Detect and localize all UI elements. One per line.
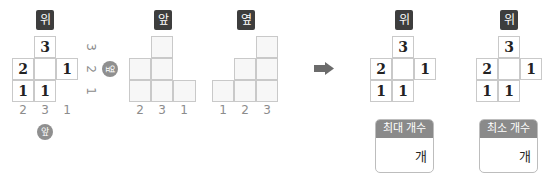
front-column-label: 1 [173,103,195,117]
grid-cell: 1 [392,80,414,102]
side-column-label: 2 [234,103,256,117]
grid-cell: 3 [34,36,56,58]
min-count-title: 최소 개수 [480,120,537,138]
block [151,80,173,102]
block [151,58,173,80]
side-badge: 옆 [102,61,118,77]
block [129,58,151,80]
min-count-unit: 개 [519,146,531,165]
grid-cell: 1 [56,58,78,80]
front-view-label: 앞 [154,10,172,30]
max-count-box: 최대 개수 개 [375,119,434,173]
side-view-label: 옆 [237,10,255,30]
min-count-input[interactable]: 개 [480,138,537,172]
max-count-input[interactable]: 개 [376,138,433,172]
side-column-label: 3 [256,103,278,117]
block [151,36,173,58]
grid-cell: 1 [498,80,520,102]
grid-cell: 1 [370,80,392,102]
block [234,58,256,80]
top-view-label: 위 [36,10,54,30]
right-arrow-icon [314,62,334,75]
block [256,80,278,102]
front-badge: 앞 [37,124,53,140]
grid-cell: 2 [12,58,34,80]
min-count-box: 최소 개수 개 [479,119,538,173]
column-count-label: 2 [12,103,34,117]
column-count-label: 1 [56,103,78,117]
grid-cell: 3 [498,36,520,58]
top-view-label: 위 [395,10,413,30]
grid-cell: 1 [520,58,542,80]
block [256,58,278,80]
front-column-label: 2 [129,103,151,117]
grid-cell [392,58,414,80]
grid-cell: 3 [392,36,414,58]
grid-cell [498,58,520,80]
grid-cell: 1 [476,80,498,102]
max-count-unit: 개 [415,146,427,165]
block [212,80,234,102]
block [234,80,256,102]
block [129,80,151,102]
grid-cell [34,58,56,80]
column-count-label: 3 [34,103,56,117]
grid-cell: 1 [12,80,34,102]
row-count-label: 2 [80,62,102,76]
grid-cell: 2 [370,58,392,80]
max-count-title: 최대 개수 [376,120,433,138]
row-count-label: 1 [80,84,102,98]
block [256,36,278,58]
top-view-label: 위 [500,10,518,30]
grid-cell: 1 [34,80,56,102]
row-count-label: 3 [80,40,102,54]
grid-cell: 2 [476,58,498,80]
front-column-label: 3 [151,103,173,117]
block [173,80,196,102]
side-column-label: 1 [212,103,234,117]
grid-cell: 1 [414,58,436,80]
